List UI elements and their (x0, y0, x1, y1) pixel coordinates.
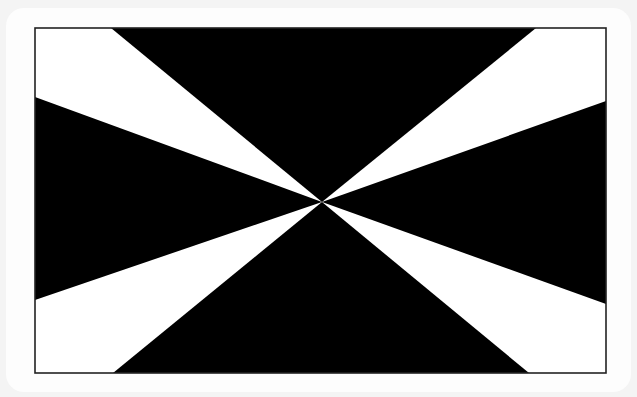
flag-emblem (0, 0, 637, 397)
